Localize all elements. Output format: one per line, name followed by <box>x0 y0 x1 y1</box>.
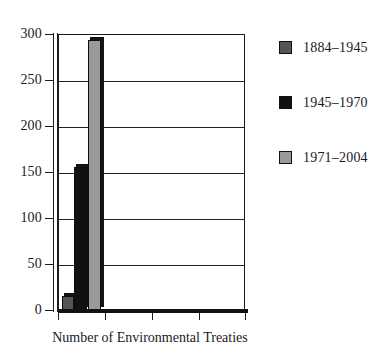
bar-face <box>88 40 101 311</box>
legend-label-2: 1971–2004 <box>303 150 368 165</box>
y-tick-label-300: 300 <box>0 27 42 41</box>
bar-1884-1945 <box>62 296 74 310</box>
y-tick-50 <box>45 264 54 265</box>
legend-swatch-icon-0 <box>279 41 292 54</box>
y-tick-100 <box>45 218 54 219</box>
y-tick-label-250: 250 <box>0 73 42 87</box>
y-tick-300 <box>45 34 54 35</box>
axis-baseline <box>58 309 248 313</box>
gridline-200 <box>59 127 244 128</box>
y-tick-150 <box>45 172 54 173</box>
bar-1945-1970 <box>74 167 87 311</box>
x-tick-4 <box>245 313 246 320</box>
legend-label-1: 1945–1970 <box>303 95 368 110</box>
y-tick-label-50: 50 <box>0 257 42 271</box>
y-tick-label-200: 200 <box>0 119 42 133</box>
y-tick-label-100: 100 <box>0 211 42 225</box>
gridline-250 <box>59 81 244 82</box>
legend-swatch-icon-1 <box>279 96 292 109</box>
y-axis-spine-inner <box>57 33 58 312</box>
bar-side-face <box>101 37 104 308</box>
x-tick-0 <box>58 313 59 320</box>
bar-1971-2004 <box>88 40 101 311</box>
y-tick-label-0: 0 <box>0 303 42 317</box>
y-tick-0 <box>45 310 54 311</box>
bar-face <box>62 296 74 310</box>
bar-chart-figure: 300 250 200 150 100 50 0 Number of Envir… <box>0 0 391 358</box>
x-axis-title: Number of Environmental Treaties <box>0 330 300 346</box>
x-tick-2 <box>152 313 153 320</box>
x-tick-1 <box>105 313 106 320</box>
y-tick-label-150: 150 <box>0 165 42 179</box>
x-tick-3 <box>199 313 200 320</box>
y-tick-200 <box>45 126 54 127</box>
legend-label-0: 1884–1945 <box>303 40 368 55</box>
legend-swatch-icon-2 <box>279 151 292 164</box>
y-tick-250 <box>45 80 54 81</box>
bar-face <box>74 167 87 311</box>
